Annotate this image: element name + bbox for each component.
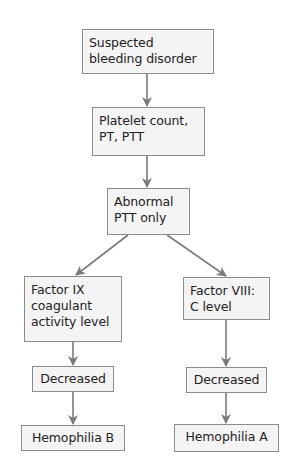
node-factor-viii-level: Factor VIII: C level — [183, 277, 270, 320]
node-decreased-left: Decreased — [32, 366, 114, 392]
node-factor-ix-level: Factor IX coagulant activity level — [24, 276, 122, 342]
node-hemophilia-b: Hemophilia B — [21, 425, 125, 451]
node-suspected-bleeding-disorder: Suspected bleeding disorder — [82, 29, 214, 74]
node-hemophilia-a: Hemophilia A — [174, 424, 279, 452]
node-decreased-right: Decreased — [186, 367, 267, 393]
arrow-abnormal-ptt-to-factor-viii — [167, 235, 226, 276]
node-abnormal-ptt-only: Abnormal PTT only — [107, 188, 190, 235]
node-screening-tests: Platelet count, PT, PTT — [92, 107, 205, 156]
flowchart: Suspected bleeding disorder Platelet cou… — [0, 0, 292, 476]
arrow-abnormal-ptt-to-factor-ix — [76, 235, 128, 275]
